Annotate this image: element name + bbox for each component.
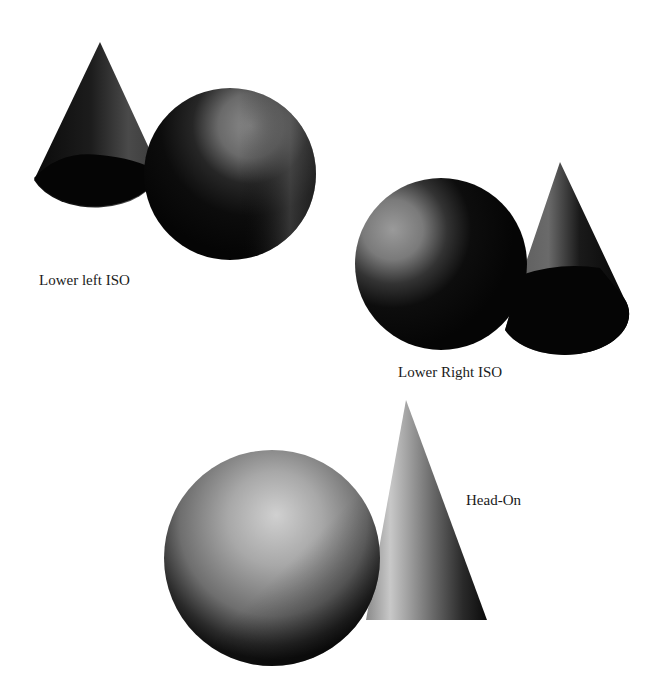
sphere-shape xyxy=(144,88,316,260)
lower-left-iso-view xyxy=(34,42,316,260)
head-on-label: Head-On xyxy=(466,493,521,508)
sphere-shape xyxy=(164,450,380,666)
lower-right-iso-view xyxy=(355,162,629,355)
lower-right-iso-label: Lower Right ISO xyxy=(398,365,502,380)
lower-left-iso-label: Lower left ISO xyxy=(39,273,130,288)
head-on-view xyxy=(164,400,487,666)
figure-canvas xyxy=(0,0,657,698)
cone-shape xyxy=(34,42,160,208)
sphere-shape xyxy=(355,178,527,350)
cone-shape xyxy=(366,400,487,620)
